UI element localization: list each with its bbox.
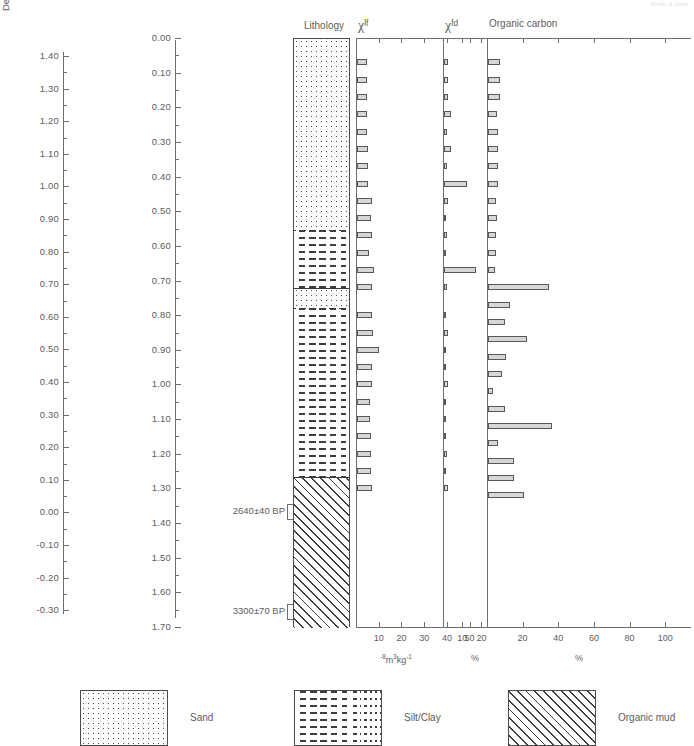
data-bar	[444, 59, 448, 65]
panel-xtick-label: 40	[553, 633, 563, 643]
axis-tick-label: 0.10	[138, 67, 171, 78]
panel-xtick-top	[665, 39, 666, 43]
panel-xtick-top	[462, 39, 463, 43]
data-bar	[357, 163, 368, 169]
panel-xtick-bottom	[462, 622, 463, 627]
data-bar	[357, 433, 371, 439]
axis-tick	[175, 142, 181, 143]
data-bar	[444, 347, 446, 353]
axis-tick-label: 0.50	[26, 343, 59, 354]
data-bar	[444, 364, 446, 370]
panel-unit-label: -8m3kg-1	[380, 653, 412, 665]
legend-label: Organic mud	[618, 712, 675, 723]
axis-tick	[63, 480, 69, 481]
data-bar	[357, 129, 367, 135]
axis-tick	[175, 419, 181, 420]
axis-tick	[63, 121, 69, 122]
axis-tick-minor	[175, 194, 179, 195]
data-bar	[488, 492, 524, 498]
panel-xtick-bottom	[523, 622, 524, 627]
data-bar	[488, 94, 500, 100]
data-bar	[488, 336, 527, 342]
axis-tick-label: 1.60	[138, 586, 171, 597]
lithology-column	[293, 38, 350, 627]
axis-tick-label: 1.30	[26, 83, 59, 94]
lithology-segment-silt	[294, 308, 349, 478]
data-bar	[444, 77, 448, 83]
axis-tick-minor	[175, 471, 179, 472]
panel-xtick-label: 30	[419, 633, 429, 643]
data-bar	[488, 232, 496, 238]
data-bar	[488, 129, 498, 135]
depth-datum-axis: 0.000.100.200.300.400.500.600.700.800.90…	[0, 11, 694, 22]
panel-xtick-bottom	[594, 622, 595, 627]
axis-tick-label: 0.40	[138, 171, 171, 182]
data-bar	[488, 458, 514, 464]
data-bar	[357, 416, 370, 422]
data-bar	[488, 423, 552, 429]
axis-tick	[175, 177, 181, 178]
axis-tick-label: 1.70	[138, 621, 171, 632]
axis-tick-minor	[175, 367, 179, 368]
axis-tick-label: -0.20	[26, 572, 59, 583]
panel-organic-carbon: 20406080100Organic carbon%	[487, 38, 694, 667]
data-bar	[488, 181, 498, 187]
data-bar	[357, 399, 370, 405]
data-bar	[488, 77, 500, 83]
data-bar	[444, 330, 448, 336]
data-bar	[488, 354, 506, 360]
data-bar	[488, 440, 498, 446]
axis-tick	[63, 415, 69, 416]
panel-xtick-top	[481, 39, 482, 43]
data-bar	[444, 433, 446, 439]
data-bar	[488, 111, 497, 117]
axis-tick	[63, 219, 69, 220]
axis-tick-label: 0.50	[138, 205, 171, 216]
legend-swatch-organic	[508, 690, 596, 746]
axis-tick-label: 0.70	[138, 275, 171, 286]
axis-tick-minor	[175, 436, 179, 437]
data-bar	[488, 406, 505, 412]
axis-tick-minor	[175, 575, 179, 576]
data-bar	[357, 77, 367, 83]
axis-tick-minor	[63, 464, 67, 465]
axis-tick-label: 1.10	[26, 148, 59, 159]
axis-tick	[63, 56, 69, 57]
axis-tick-minor	[63, 105, 67, 106]
data-bar	[488, 146, 498, 152]
legend-swatch-sand	[80, 690, 168, 746]
data-bar	[357, 312, 372, 318]
panel-xtick-top	[424, 39, 425, 43]
panel-title: Organic carbon	[489, 18, 557, 29]
axis-tick	[175, 73, 181, 74]
axis-tick-minor	[63, 333, 67, 334]
panel-title: χfd	[445, 18, 458, 34]
axis-tick-minor	[175, 402, 179, 403]
data-bar	[444, 111, 451, 117]
depth-od-axis: 1.401.301.201.101.000.900.800.700.600.50…	[0, 0, 694, 11]
axis-tick-label: 0.60	[138, 240, 171, 251]
axis-tick-label: 0.90	[26, 213, 59, 224]
axis-tick	[175, 523, 181, 524]
axis-tick-label: 1.20	[138, 448, 171, 459]
axis-tick	[175, 384, 181, 385]
data-bar	[444, 146, 451, 152]
panel-xtick-top	[379, 39, 380, 43]
data-bar	[357, 250, 369, 256]
panel-depth-axis	[487, 38, 488, 627]
axis-tick-minor	[63, 138, 67, 139]
axis-tick-label: 1.10	[138, 413, 171, 424]
axis-tick	[175, 558, 181, 559]
panel-xtick-label: 20	[396, 633, 406, 643]
data-bar	[444, 399, 446, 405]
panel-xtick-top	[401, 39, 402, 43]
axis-tick	[63, 284, 69, 285]
panel-xtick-label: 20	[518, 633, 528, 643]
depth-datum-axis-title: Depth below datum (m)	[0, 0, 11, 11]
axis-tick-label: 1.20	[26, 115, 59, 126]
panel-xtick-label: 60	[589, 633, 599, 643]
axis-tick	[175, 211, 181, 212]
data-bar	[357, 232, 372, 238]
data-bar	[488, 371, 502, 377]
data-bar	[357, 330, 373, 336]
